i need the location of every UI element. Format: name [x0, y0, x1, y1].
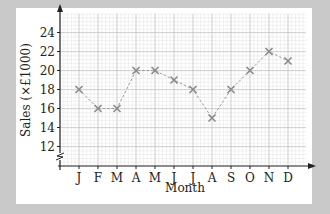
series	[76, 48, 292, 122]
x-tick-label: N	[264, 171, 275, 185]
x-tick-label: M	[149, 171, 161, 185]
chart: 12141618202224JFMAMJJASOND Month Sales (…	[0, 0, 330, 214]
x-tick-label: F	[94, 171, 102, 185]
y-tick-label: 14	[40, 121, 56, 135]
y-axis-title: Sales (×£1000)	[19, 43, 33, 137]
y-tick-label: 12	[40, 140, 55, 154]
series-line	[79, 52, 288, 119]
x-tick-label: S	[227, 171, 235, 185]
y-axis-arrow	[57, 4, 63, 12]
x-axis-arrow	[308, 163, 316, 169]
x-tick-label: O	[245, 171, 255, 185]
x-tick-label: A	[207, 171, 217, 185]
x-axis-title: Month	[165, 181, 205, 195]
grid	[60, 14, 306, 166]
x-tick-label: M	[111, 171, 123, 185]
y-tick-label: 24	[40, 26, 56, 40]
x-tick-label: J	[75, 171, 82, 185]
y-tick-label: 18	[40, 83, 55, 97]
y-tick-label: 22	[40, 45, 55, 59]
y-tick-label: 16	[40, 102, 55, 116]
x-tick-label: A	[131, 171, 141, 185]
x-tick-label: D	[283, 171, 293, 185]
y-tick-label: 20	[40, 64, 55, 78]
axes	[56, 4, 316, 170]
